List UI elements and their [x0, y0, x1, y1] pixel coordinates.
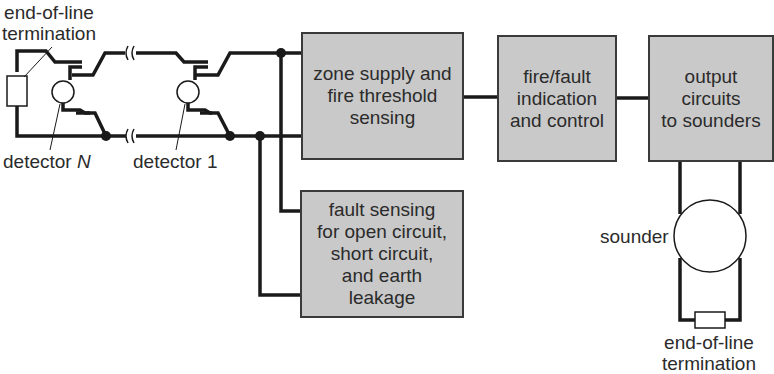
- detector-1-icon: [177, 81, 199, 103]
- indication-line-2: indication: [510, 88, 604, 110]
- eol-resistor-left: [7, 76, 27, 106]
- eol-top-label: end-of-line termination: [2, 2, 96, 44]
- output-circuits-block: output circuits to sounders: [648, 35, 774, 162]
- output-line-3: to sounders: [661, 110, 760, 132]
- indication-control-block: fire/fault indication and control: [497, 35, 617, 162]
- zone-supply-line-2: fire threshold: [313, 85, 451, 107]
- fault-sensing-line-4: and earth: [317, 265, 447, 287]
- detector-1-label: detector 1: [133, 151, 218, 172]
- fault-sensing-line-2: for open circuit,: [317, 221, 447, 243]
- fault-sensing-line-3: short circuit,: [317, 243, 447, 265]
- indication-line-1: fire/fault: [510, 66, 604, 88]
- zone-supply-block: zone supply and fire threshold sensing: [301, 32, 464, 160]
- detector-n-label: detector N: [3, 151, 91, 172]
- zone-supply-line-3: sensing: [313, 107, 451, 129]
- zone-supply-line-1: zone supply and: [313, 63, 451, 85]
- sounder-icon: [674, 200, 746, 272]
- eol-bottom-label: end-of-line termination: [662, 332, 756, 374]
- detector-n-icon: [52, 81, 74, 103]
- fault-sensing-line-5: leakage: [317, 287, 447, 309]
- eol-resistor-bottom: [695, 312, 725, 328]
- output-line-2: circuits: [661, 88, 760, 110]
- indication-line-3: and control: [510, 110, 604, 132]
- output-line-1: output: [661, 66, 760, 88]
- sounder-label: sounder: [600, 226, 669, 247]
- fault-sensing-block: fault sensing for open circuit, short ci…: [300, 190, 464, 318]
- fault-sensing-line-1: fault sensing: [317, 199, 447, 221]
